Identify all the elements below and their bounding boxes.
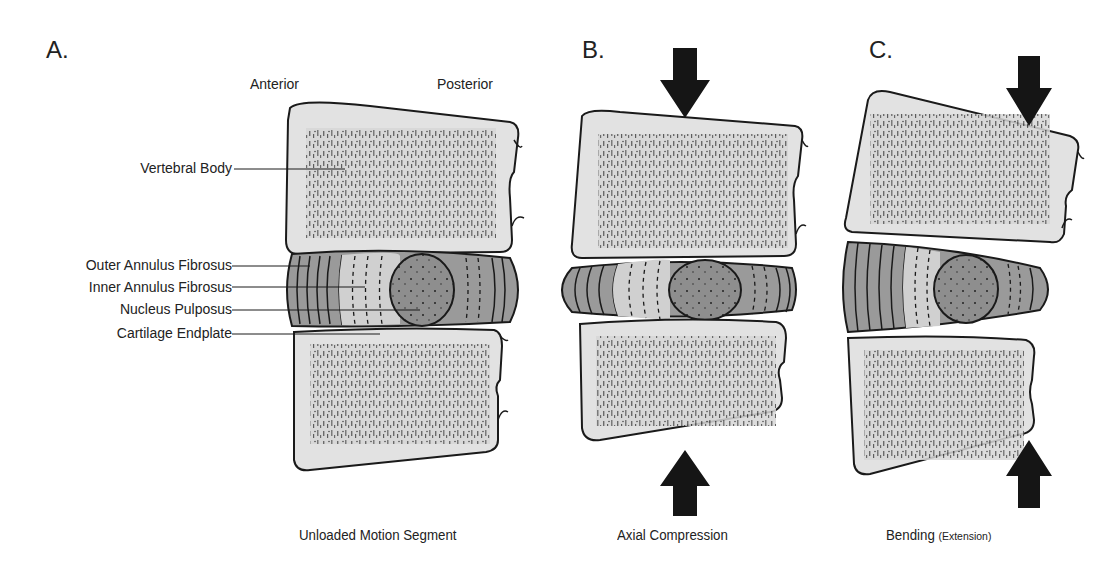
- compression-arrow-up: [660, 450, 710, 516]
- caption-bending-sub: (Extension): [939, 530, 992, 542]
- nucleus-pulposus-a: [390, 254, 454, 326]
- panel-c-letter: C.: [869, 36, 893, 64]
- caption-bending-main: Bending: [886, 527, 935, 543]
- label-inner-annulus-fibrosus: Inner Annulus Fibrosus: [89, 279, 232, 295]
- panel-a-drawing: [232, 102, 524, 470]
- compression-arrow-down: [660, 48, 710, 118]
- panel-b-letter: B.: [582, 36, 605, 64]
- label-nucleus-pulposus: Nucleus Pulposus: [120, 301, 232, 317]
- anterior-label: Anterior: [250, 76, 299, 92]
- label-cartilage-endplate: Cartilage Endplate: [117, 325, 232, 341]
- caption-bending: Bending (Extension): [886, 527, 991, 543]
- label-vertebral-body: Vertebral Body: [140, 160, 232, 176]
- label-outer-annulus-fibrosus: Outer Annulus Fibrosus: [86, 257, 232, 273]
- panel-c-drawing: [843, 56, 1084, 508]
- panel-b-drawing: [562, 48, 808, 516]
- caption-axial-compression: Axial Compression: [617, 527, 728, 543]
- panel-a-letter: A.: [46, 36, 69, 64]
- caption-unloaded-motion-segment: Unloaded Motion Segment: [299, 527, 456, 543]
- posterior-label: Posterior: [437, 76, 493, 92]
